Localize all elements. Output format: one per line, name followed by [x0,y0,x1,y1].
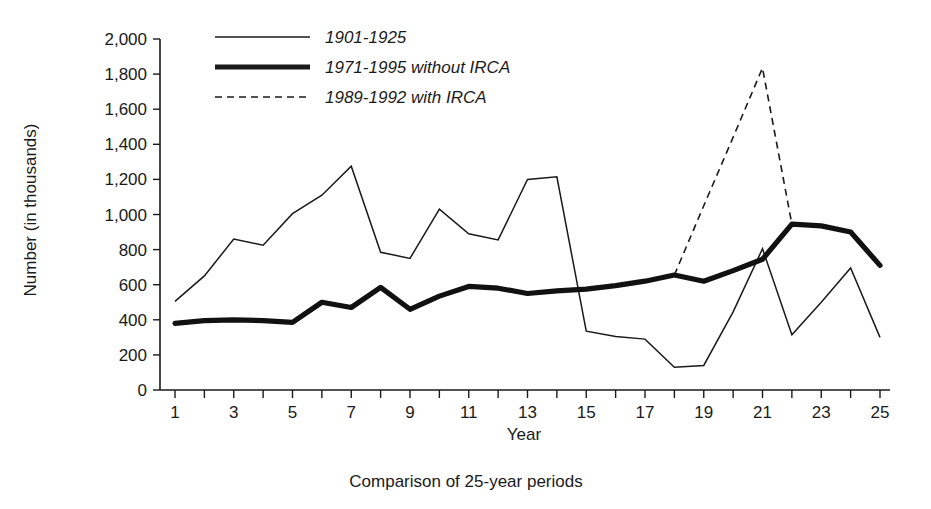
x-tick-label: 25 [871,403,890,422]
x-axis-tick-labels: 135791113151719212325 [170,403,889,422]
x-tick-label: 11 [460,403,478,422]
series-group [175,68,880,367]
x-tick-label: 5 [288,403,297,422]
series-line-1901-1925 [175,166,880,367]
x-tick-label: 3 [229,403,238,422]
x-tick-label: 19 [694,403,713,422]
y-axis-ticks [153,39,160,390]
y-tick-label: 200 [119,346,147,365]
line-chart: 02004006008001,0001,2001,4001,6001,8002,… [0,0,931,509]
x-axis-ticks [175,390,880,398]
x-tick-label: 9 [405,403,414,422]
chart-figure: 02004006008001,0001,2001,4001,6001,8002,… [0,0,931,509]
x-axis-title: Year [507,425,542,444]
series-line-1971-1995-without-irca [175,224,880,323]
y-tick-label: 800 [119,241,147,260]
y-tick-label: 1,200 [104,170,147,189]
legend-label-2: 1971-1995 without IRCA [325,58,510,77]
axis-group: 02004006008001,0001,2001,4001,6001,8002,… [104,30,890,422]
x-tick-label: 7 [347,403,356,422]
y-axis-tick-labels: 02004006008001,0001,2001,4001,6001,8002,… [104,30,147,400]
x-tick-label: 23 [812,403,831,422]
y-tick-label: 400 [119,311,147,330]
chart-caption: Comparison of 25-year periods [349,472,582,491]
y-tick-label: 2,000 [104,30,147,49]
y-tick-label: 1,800 [104,65,147,84]
legend-label-1: 1901-1925 [325,28,407,47]
x-tick-label: 21 [753,403,772,422]
x-tick-label: 17 [636,403,655,422]
legend-label-3: 1989-1992 with IRCA [325,88,487,107]
x-tick-label: 1 [170,403,179,422]
y-tick-label: 1,600 [104,100,147,119]
y-tick-label: 0 [138,381,147,400]
y-tick-label: 600 [119,276,147,295]
y-tick-label: 1,400 [104,135,147,154]
x-tick-label: 13 [518,403,537,422]
y-tick-label: 1,000 [104,206,147,225]
x-tick-label: 15 [577,403,596,422]
y-axis-title: Number (in thousands) [21,124,40,297]
legend: 1901-19251971-1995 without IRCA1989-1992… [215,28,510,107]
